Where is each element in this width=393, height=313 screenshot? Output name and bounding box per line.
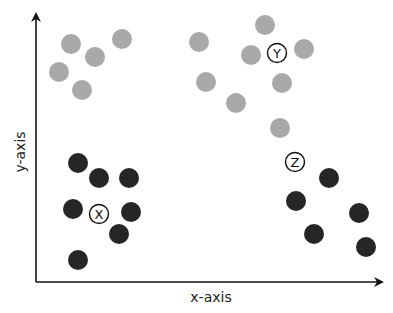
data-point-y xyxy=(112,29,132,49)
data-point-y xyxy=(294,39,314,59)
data-point-x xyxy=(121,202,141,222)
cluster-label-x: X xyxy=(90,205,109,224)
cluster-label-text: Z xyxy=(291,155,300,170)
data-point-z xyxy=(349,203,369,223)
cluster-label-text: X xyxy=(95,207,104,222)
data-point-y xyxy=(189,32,209,52)
data-point-z xyxy=(286,191,306,211)
data-point-y xyxy=(241,45,261,65)
data-point-x xyxy=(68,153,88,173)
data-point-y xyxy=(272,73,292,93)
data-point-x xyxy=(119,168,139,188)
cluster-label-text: Y xyxy=(272,46,281,61)
scatter-diagram: x-axis y-axis YXZ xyxy=(0,0,393,313)
data-point-x xyxy=(63,199,83,219)
data-point-y xyxy=(255,15,275,35)
data-point-y xyxy=(49,62,69,82)
data-point-x xyxy=(89,168,109,188)
data-point-z xyxy=(319,168,339,188)
x-axis-label: x-axis xyxy=(190,289,231,305)
data-points xyxy=(49,15,376,270)
y-axis-label: y-axis xyxy=(12,131,28,172)
data-point-x xyxy=(109,224,129,244)
data-point-y xyxy=(72,80,92,100)
data-point-z xyxy=(356,237,376,257)
cluster-label-z: Z xyxy=(286,153,305,172)
data-point-y xyxy=(196,72,216,92)
cluster-label-y: Y xyxy=(268,44,287,63)
data-point-y xyxy=(226,93,246,113)
data-point-z xyxy=(304,224,324,244)
data-point-y xyxy=(85,47,105,67)
data-point-y xyxy=(61,34,81,54)
data-point-y xyxy=(270,118,290,138)
data-point-x xyxy=(68,250,88,270)
